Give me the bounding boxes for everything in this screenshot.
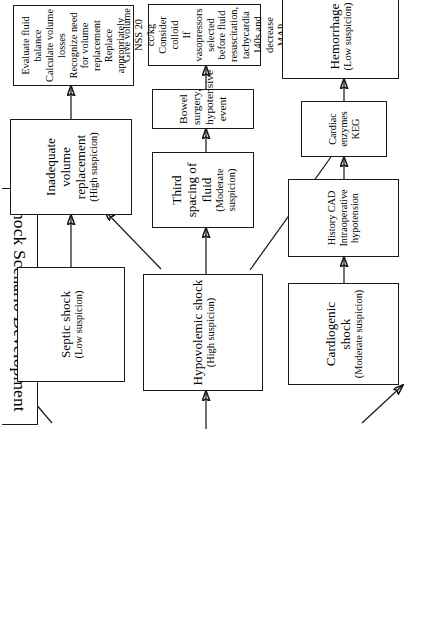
node-septic-shock-sub: (Low suspicion) [73, 271, 85, 378]
node-cardiogenic-shock-label: Cardiogenic shock [323, 302, 353, 366]
node-septic-shock-label: Septic shock [58, 291, 73, 358]
flowchart-canvas: Shock Scenario Development Septic shock … [0, 0, 421, 619]
node-hypovolemic-shock-sub: (High suspicion) [205, 278, 217, 387]
node-volume-actions[interactable]: Evaluate fluid balance Calculate volume … [13, 5, 134, 86]
node-hypovolemic-shock-label: Hypovolemic shock [190, 280, 205, 386]
node-bowel-surgery-hypotensive-event-label: Bowel surgery, hypotensive event [177, 93, 229, 125]
node-volume-management-label: Give volume NSS 20 cc/kg Consider colloi… [121, 8, 288, 62]
node-third-spacing-of-fluid-sub: (Moderate suspicion) [214, 156, 238, 224]
node-hemorrhage[interactable]: Hemorrhage (Low suspicion) [282, 0, 399, 79]
node-volume-management[interactable]: Give volume NSS 20 cc/kg Consider colloi… [148, 4, 261, 66]
node-cardiac-enzymes[interactable]: Cardiac enzymes KEG [301, 101, 387, 157]
node-hypovolemic-shock[interactable]: Hypovolemic shock (High suspicion) [143, 274, 263, 391]
node-cardiac-enzymes-label: Cardiac enzymes KEG [327, 105, 362, 153]
node-hemorrhage-sub: (Low suspicion) [342, 0, 354, 75]
node-inadequate-volume-replacement[interactable]: Inadequate volume replacement (High susp… [10, 119, 132, 215]
node-cardiogenic-shock-sub: (Moderate suspicion) [353, 287, 365, 381]
node-bowel-surgery-hypotensive-event[interactable]: Bowel surgery, hypotensive event [152, 89, 254, 129]
edge-title-to-cardiogenic-shock [362, 385, 403, 423]
node-inadequate-volume-replacement-label: Inadequate volume replacement [43, 135, 88, 199]
node-hemorrhage-label: Hemorrhage [327, 4, 342, 70]
node-history-cad[interactable]: History CAD Intraoperative hypotension [288, 179, 399, 257]
node-third-spacing-of-fluid[interactable]: Third spacing of fluid (Moderate suspici… [152, 152, 254, 228]
node-third-spacing-of-fluid-label: Third spacing of fluid [169, 163, 214, 218]
node-septic-shock[interactable]: Septic shock (Low suspicion) [17, 267, 125, 382]
node-cardiogenic-shock[interactable]: Cardiogenic shock (Moderate suspicion) [288, 283, 399, 385]
node-history-cad-label: History CAD Intraoperative hypotension [326, 183, 361, 253]
node-inadequate-volume-replacement-sub: (High suspicion) [88, 123, 100, 211]
node-volume-actions-label: Evaluate fluid balance Calculate volume … [20, 9, 128, 82]
